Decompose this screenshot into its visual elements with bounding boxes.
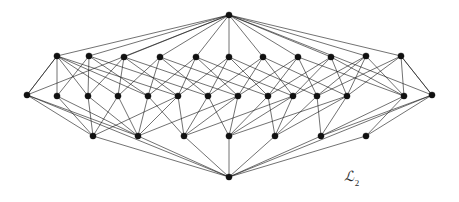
lattice-node-m11 [344,93,350,99]
lattice-diagram-canvas [0,0,459,202]
lattice-edge [331,57,404,96]
node-layer [24,12,435,180]
lattice-edge [229,15,298,57]
lattice-node-m13 [429,92,435,98]
lattice-edge [229,95,432,177]
lattice-edge [238,57,298,96]
lattice-edge [229,57,268,96]
lattice-edge [93,136,229,177]
lattice-edge [89,15,229,56]
lattice-node-u2 [121,54,127,60]
lattice-node-l1 [135,133,141,139]
lattice-edge [229,15,263,57]
lattice-node-u3 [157,54,163,60]
lattice-node-m10 [314,93,320,99]
lattice-edge [293,57,331,96]
lattice-node-u8 [328,54,334,60]
lattice-edge [57,96,138,136]
lattice-edge [184,136,229,177]
lattice-node-m4 [145,93,151,99]
lattice-node-u6 [260,54,266,60]
lattice-edge [317,96,321,136]
lattice-node-u1 [86,53,92,59]
lattice-node-l2 [181,133,187,139]
lattice-edge [138,96,178,136]
lattice-edge [229,15,366,56]
lattice-edge [160,57,208,96]
lattice-edge [229,96,347,136]
lattice-node-u4 [193,54,199,60]
lattice-edge [27,95,138,136]
lattice-node-m6 [205,93,211,99]
lattice-edge [138,96,148,136]
lattice-edge [57,56,148,96]
lattice-node-l5 [318,133,324,139]
lattice-figure: ℒ2 [0,0,459,202]
lattice-edge [229,96,268,136]
lattice-edge [229,136,321,177]
lattice-caption-label: ℒ2 [344,168,359,187]
lattice-edge [196,57,293,96]
lattice-node-u5 [226,54,232,60]
lattice-edge [57,15,229,56]
caption-symbol: ℒ [344,169,354,184]
lattice-edge [27,95,229,177]
lattice-node-l6 [363,133,369,139]
lattice-edge [138,136,229,177]
lattice-edge [321,96,404,136]
lattice-edge [229,136,275,177]
lattice-node-m1 [54,93,60,99]
lattice-edge [331,57,347,96]
lattice-edge [88,56,89,96]
lattice-edge [263,57,347,96]
lattice-edge [268,57,331,96]
lattice-edge [208,57,263,96]
lattice-node-m12 [401,93,407,99]
lattice-node-u10 [398,53,404,59]
lattice-node-m8 [265,93,271,99]
lattice-node-u9 [363,53,369,59]
lattice-edge [88,96,93,136]
lattice-node-l0 [90,133,96,139]
lattice-node-m3 [115,93,121,99]
lattice-edge [160,57,268,96]
lattice-edge [366,56,404,96]
lattice-edge [57,56,118,96]
lattice-node-m5 [175,93,181,99]
lattice-node-m2 [85,93,91,99]
lattice-edge [57,96,93,136]
lattice-node-m0 [24,92,30,98]
lattice-edge [160,15,229,57]
lattice-edge [401,56,404,96]
caption-subscript: 2 [355,178,360,188]
lattice-node-u7 [295,54,301,60]
lattice-node-l3 [226,133,232,139]
lattice-node-u0 [54,53,60,59]
lattice-node-m9 [290,93,296,99]
lattice-edge [148,57,196,96]
lattice-edge [268,96,275,136]
lattice-edge [196,57,238,96]
lattice-edge [124,57,178,96]
lattice-edge [275,96,293,136]
lattice-node-l4 [272,133,278,139]
lattice-node-T [226,12,232,18]
lattice-edge [229,15,401,56]
lattice-node-m7 [235,93,241,99]
lattice-node-B [226,174,232,180]
